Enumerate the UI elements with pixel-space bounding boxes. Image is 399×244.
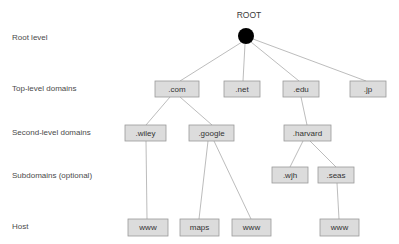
edge-wiley-to-www1 xyxy=(146,141,147,219)
node-label-edu: .edu xyxy=(293,85,309,94)
edge-seas-to-www3 xyxy=(337,183,339,219)
node-www2[interactable]: www xyxy=(232,219,271,236)
node-wjh[interactable]: .wjh xyxy=(272,167,308,183)
node-label-www3: www xyxy=(330,223,349,232)
node-label-jp: .jp xyxy=(364,85,373,94)
node-label-wjh: .wjh xyxy=(283,171,297,180)
edge-harvard-to-wjh xyxy=(290,141,303,167)
row-label-3: Subdomains (optional) xyxy=(12,171,92,180)
edge-root-to-com xyxy=(180,42,242,81)
root-node-label: ROOT xyxy=(237,10,262,20)
node-label-google: .google xyxy=(198,129,225,138)
node-label-com: .com xyxy=(168,85,186,94)
node-label-www1: www xyxy=(138,223,157,232)
node-label-net: .net xyxy=(235,85,249,94)
edge-com-to-wiley xyxy=(146,97,170,125)
root-node-group: ROOT xyxy=(237,10,262,44)
dns-hierarchy-diagram: Root levelTop-level domainsSecond-level … xyxy=(0,0,399,244)
edge-root-to-net xyxy=(243,44,245,81)
edge-root-to-edu xyxy=(251,42,299,81)
row-label-4: Host xyxy=(12,222,29,231)
node-net[interactable]: .net xyxy=(224,81,260,97)
node-label-www2: www xyxy=(242,223,261,232)
diagram-canvas: Root levelTop-level domainsSecond-level … xyxy=(0,0,399,244)
node-label-seas: .seas xyxy=(326,171,345,180)
node-label-harvard: .harvard xyxy=(293,129,322,138)
row-labels-group: Root levelTop-level domainsSecond-level … xyxy=(12,33,92,231)
node-google[interactable]: .google xyxy=(189,125,234,141)
node-com[interactable]: .com xyxy=(155,81,199,97)
edge-com-to-google xyxy=(180,97,212,125)
edge-edu-to-harvard xyxy=(301,97,307,125)
node-jp[interactable]: .jp xyxy=(350,81,386,97)
node-label-maps: maps xyxy=(190,223,210,232)
row-label-1: Top-level domains xyxy=(12,84,76,93)
edge-root-to-jp xyxy=(253,39,366,81)
node-edu[interactable]: .edu xyxy=(283,81,319,97)
edge-google-to-www2 xyxy=(214,141,251,219)
root-node-dot[interactable] xyxy=(238,28,254,44)
edge-google-to-maps xyxy=(199,141,208,219)
row-label-0: Root level xyxy=(12,33,48,42)
node-wiley[interactable]: .wiley xyxy=(125,125,166,141)
row-label-2: Second-level domains xyxy=(12,128,91,137)
node-maps[interactable]: maps xyxy=(180,219,219,236)
node-seas[interactable]: .seas xyxy=(318,167,354,183)
node-harvard[interactable]: .harvard xyxy=(284,125,331,141)
node-www3[interactable]: www xyxy=(320,219,359,236)
node-label-wiley: .wiley xyxy=(135,129,155,138)
edge-harvard-to-seas xyxy=(310,141,336,167)
node-www1[interactable]: www xyxy=(128,219,168,236)
edges-group xyxy=(146,39,366,219)
